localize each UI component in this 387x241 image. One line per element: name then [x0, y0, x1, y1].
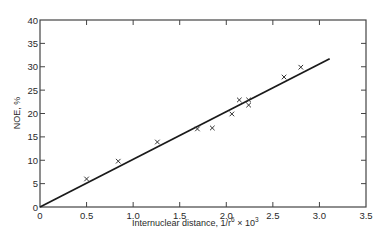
y-tick-label: 0	[33, 202, 38, 213]
y-tick-label: 5	[33, 178, 38, 189]
axis-ticks	[40, 20, 366, 207]
y-tick-label: 25	[27, 85, 38, 96]
y-tick-labels: 0510152025303540	[27, 15, 38, 213]
x-tick-label: 3.0	[313, 210, 326, 221]
x-marker	[84, 177, 89, 182]
fit-line	[40, 59, 330, 207]
regression-line	[40, 59, 330, 207]
x-tick-label: 3.5	[359, 210, 372, 221]
data-points	[84, 65, 303, 181]
y-tick-label: 40	[27, 15, 38, 26]
plot-border	[40, 20, 366, 207]
y-tick-label: 20	[27, 108, 38, 119]
y-axis-title: NOE, %	[12, 97, 22, 130]
plot-frame	[40, 20, 366, 207]
noe-chart: 00.51.01.52.02.53.03.5 0510152025303540 …	[0, 0, 387, 241]
y-tick-label: 15	[27, 131, 38, 142]
x-marker	[230, 112, 235, 117]
y-tick-label: 30	[27, 61, 38, 72]
x-marker	[237, 98, 242, 103]
y-tick-label: 35	[27, 38, 38, 49]
x-tick-label: 0.5	[80, 210, 93, 221]
x-marker	[210, 126, 215, 131]
x-axis-title: Internuclear distance, 1/r6 × 103	[132, 216, 259, 228]
x-marker	[246, 103, 251, 108]
x-marker	[299, 65, 304, 70]
y-tick-label: 10	[27, 155, 38, 166]
x-marker	[282, 75, 287, 80]
x-marker	[116, 159, 121, 164]
x-tick-label: 2.5	[266, 210, 279, 221]
x-tick-label: 0	[37, 210, 42, 221]
x-marker	[155, 140, 160, 145]
